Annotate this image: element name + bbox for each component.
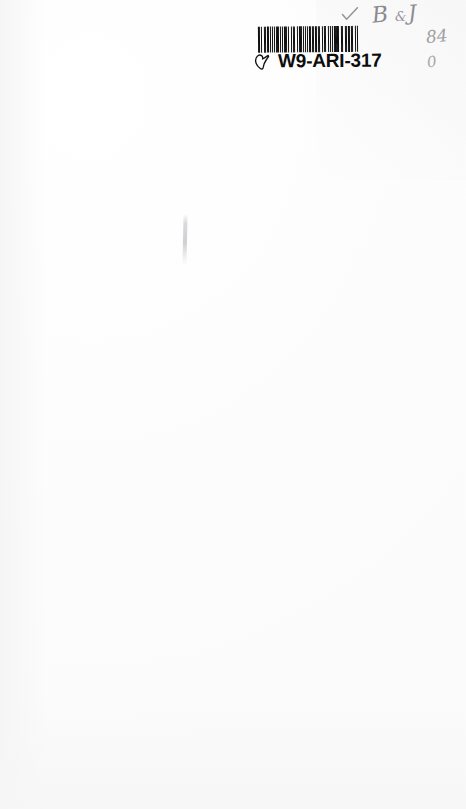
pointing-hand-icon [253,52,273,72]
paper-background [0,0,466,809]
barcode-code-text: W9-ARI-317 [278,50,382,73]
barcode-icon [258,25,418,52]
barcode-space [358,26,360,52]
barcode-label: W9-ARI-317 [252,22,432,78]
scanned-page: B & J 84 0 W9-ARI-317 [0,0,466,809]
